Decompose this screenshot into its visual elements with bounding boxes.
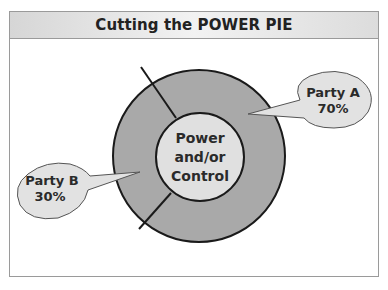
party-b-percent: 30%	[34, 189, 65, 204]
center-label-line2: and/or	[174, 149, 225, 165]
center-label-line1: Power	[175, 130, 224, 146]
party-b-label: Party B	[25, 173, 79, 188]
party-a-percent: 70%	[317, 101, 348, 116]
power-pie-diagram: Power and/or Control Party A 70% Party B…	[0, 0, 388, 290]
party-a-label: Party A	[306, 85, 360, 100]
center-label-line3: Control	[171, 168, 229, 184]
